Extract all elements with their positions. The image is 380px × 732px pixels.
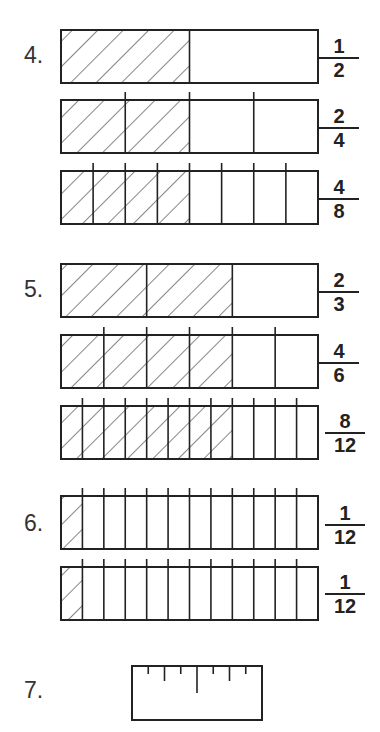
problem-6-number: 6.: [24, 510, 43, 537]
fraction-bar: [61, 488, 318, 549]
fraction-label: 812: [325, 411, 365, 455]
fraction-bar: [61, 398, 318, 459]
problem-5-number: 5.: [24, 276, 43, 303]
fraction-bar: [61, 92, 318, 153]
ruler: [132, 666, 262, 720]
fraction-bar: [61, 327, 318, 388]
fraction-label: 112: [325, 572, 365, 616]
fraction-label: 112: [325, 503, 365, 547]
fraction-label: 23: [319, 270, 359, 314]
fraction-bar: [61, 30, 318, 83]
fraction-label: 12: [319, 36, 359, 80]
problem-7-number: 7.: [24, 677, 43, 704]
problem-4-number: 4.: [24, 42, 43, 69]
fraction-bar: [61, 163, 318, 224]
fraction-bar: [61, 264, 318, 317]
fraction-label: 24: [319, 106, 359, 150]
fraction-bar: [61, 559, 318, 620]
fraction-label: 46: [319, 341, 359, 385]
fraction-label: 48: [319, 177, 359, 221]
